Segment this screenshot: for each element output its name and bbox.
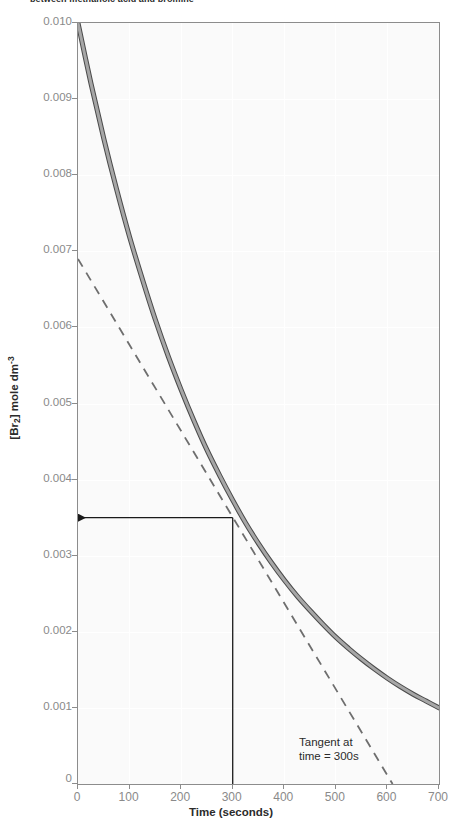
x-tick-mark [335, 784, 336, 789]
x-tick-label: 700 [408, 791, 462, 803]
y-axis-title-subscript: 2 [12, 418, 22, 423]
y-axis-title-superscript: -3 [6, 356, 16, 364]
y-axis-title-mid: ] mole dm [8, 364, 20, 418]
x-tick-mark [283, 784, 284, 789]
x-axis-tick-labels: 0100200300400500600700 [0, 0, 462, 836]
x-axis-title: Time (seconds) [0, 806, 462, 818]
chart-figure: 00.0010.0020.0030.0040.0050.0060.0070.00… [0, 0, 462, 836]
y-axis-title-prefix: [Br [8, 423, 20, 440]
x-tick-mark [438, 784, 439, 789]
tangent-annotation-line2: time = 300s [299, 749, 359, 763]
x-tick-mark [129, 784, 130, 789]
x-tick-mark [180, 784, 181, 789]
tangent-annotation-line1: Tangent at [299, 735, 359, 749]
y-axis-title: [Br2] mole dm-3 [6, 323, 22, 473]
x-tick-mark [77, 784, 78, 789]
x-tick-mark [386, 784, 387, 789]
tangent-annotation: Tangent at time = 300s [299, 735, 359, 764]
x-tick-mark [232, 784, 233, 789]
